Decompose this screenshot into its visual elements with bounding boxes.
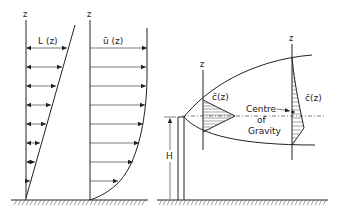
ground-left <box>11 200 148 205</box>
length-scale-profile-line <box>26 25 75 198</box>
z-axis-label-far: z <box>289 34 293 43</box>
centre-label-line2: of <box>257 115 267 125</box>
stack-height-label: H <box>166 151 173 161</box>
height-dimension: H <box>164 117 176 199</box>
length-scale-label: L (z) <box>38 36 58 46</box>
plume-panel: H z c̄(z) z c̄(z) Centre of Gravity <box>157 34 328 205</box>
centre-label-line3: Gravity <box>248 126 282 136</box>
far-concentration-profile: z c̄(z) <box>289 34 322 160</box>
stack <box>178 117 184 200</box>
wind-velocity-profile-curve <box>90 28 147 200</box>
ground-right <box>157 200 328 205</box>
wind-velocity-arrows <box>90 48 147 181</box>
centre-of-gravity-marker <box>291 110 294 113</box>
z-axis-label-near: z <box>200 60 204 69</box>
centre-label-line1: Centre <box>246 104 277 114</box>
z-axis-label-left: z <box>23 10 27 19</box>
near-concentration-profile: z c̄(z) <box>200 60 235 150</box>
wind-velocity-label: ū (z) <box>103 36 123 46</box>
centre-of-gravity-annotation: Centre of Gravity <box>246 104 290 136</box>
length-scale-panel: z L (z) <box>23 10 75 200</box>
near-concentration-label: c̄(z) <box>212 92 229 102</box>
length-scale-arrows <box>27 48 67 181</box>
far-concentration-label: c̄(z) <box>305 93 322 103</box>
wind-velocity-panel: z ū (z) <box>87 10 147 200</box>
z-axis-label-middle: z <box>87 10 91 19</box>
dispersion-diagram: z L (z) z ū (z) <box>0 0 341 219</box>
